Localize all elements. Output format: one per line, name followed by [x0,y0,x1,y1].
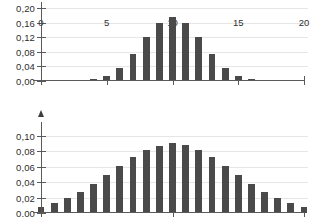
y-axis-tick-label: 0,00 [16,76,35,87]
x-axis-tick [304,76,305,85]
y-axis-tick-label: 0,06 [16,161,35,172]
y-axis-arrow-icon [38,110,44,117]
y-axis-tick-label: 0,20 [16,3,35,14]
plot-area-bottom: 0,000,020,040,060,080,10 [41,128,304,213]
bar [143,37,150,81]
y-axis-tick [37,213,46,214]
y-axis-top [41,2,42,81]
bar [156,23,163,81]
bar [222,68,229,82]
bar-series-top [41,8,304,81]
y-axis-bottom [41,122,42,213]
histogram-chart-top: 0,000,040,080,120,160,2005101520 [0,0,310,108]
bar [103,175,110,213]
y-axis-tick [37,81,46,82]
bar [169,17,176,81]
y-axis-tick-label: 0,04 [16,61,35,72]
plot-area-top: 0,000,040,080,120,160,2005101520 [41,8,304,81]
y-axis-tick-label: 0,04 [16,177,35,188]
bar [182,145,189,213]
y-axis-tick-label: 0,10 [16,130,35,141]
bar [274,198,281,213]
bar [222,166,229,213]
bar [116,166,123,213]
y-axis-tick-label: 0,08 [16,46,35,57]
bar [64,198,71,213]
bar [130,157,137,213]
bar [77,192,84,213]
bar [261,192,268,213]
bar [195,150,202,213]
bar [209,157,216,213]
bar [209,54,216,81]
bar [248,184,255,213]
y-axis-tick-label: 0,08 [16,146,35,157]
y-axis-tick-label: 0,02 [16,192,35,203]
bar [116,68,123,82]
bar-series-bottom [41,128,304,213]
bar [169,143,176,213]
bar [90,184,97,213]
bar [235,175,242,213]
bar [195,37,202,81]
y-axis-tick-label: 0,12 [16,32,35,43]
bar [143,150,150,213]
bar [130,54,137,81]
bar [182,23,189,81]
x-axis-top [33,80,304,81]
bar [156,146,163,213]
x-axis-bottom [33,212,304,213]
histogram-chart-bottom: 0,000,020,040,060,080,10 [0,108,310,217]
y-axis-tick-label: 0,16 [16,17,35,28]
